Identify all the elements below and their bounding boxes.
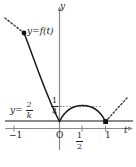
curve-dotted-extension-right	[106, 98, 128, 122]
level-line-label: y= 2 k	[10, 101, 33, 120]
fraction-quarter-denominator: 4	[51, 108, 58, 116]
fraction-quarter-numerator: 1	[51, 97, 58, 105]
origin-label: O	[56, 131, 63, 140]
curve-dotted-extension-left	[5, 18, 24, 33]
function-graph-figure: y t y=f(t) O −1 1 1 2 1 4 y= 2 k	[0, 0, 136, 167]
fraction-half-denominator: 2	[76, 143, 83, 151]
fraction-half: 1 2	[76, 132, 83, 151]
fraction-two-over-k: 2 k	[26, 101, 33, 120]
curve-label: y=f(t)	[27, 27, 54, 36]
t-axis-arrowhead	[128, 127, 133, 131]
fraction-two-over-k-numerator: 2	[26, 101, 33, 109]
fraction-two-over-k-denominator: k	[26, 112, 33, 120]
tick-label-half: 1 2	[76, 132, 83, 151]
tick-label-quarter: 1 4	[51, 97, 58, 116]
fraction-half-numerator: 1	[76, 132, 83, 140]
t-axis-label: t	[124, 126, 128, 135]
curve-solid-hump	[60, 106, 106, 122]
plot-canvas	[0, 0, 136, 167]
tick-label-minus-one: −1	[9, 131, 22, 140]
y-axis-label: y	[60, 2, 65, 11]
endpoint-dot-right	[103, 119, 108, 124]
level-line-label-lhs: y=	[10, 106, 23, 115]
tick-label-one: 1	[105, 131, 111, 140]
endpoint-dot-left	[22, 31, 27, 36]
fraction-quarter: 1 4	[51, 97, 58, 116]
